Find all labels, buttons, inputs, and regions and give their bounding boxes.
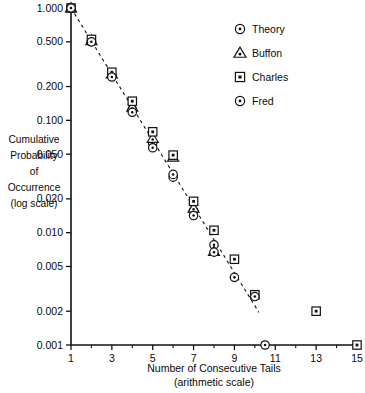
marker-center-dot <box>239 100 242 103</box>
chart-figure: 1.0000.5000.2000.1000.0500.0200.0100.005… <box>0 0 365 393</box>
cumulative-probability-scatter-chart: 1.0000.5000.2000.1000.0500.0200.0100.005… <box>0 0 365 393</box>
data-point <box>189 211 197 219</box>
marker-center-dot <box>239 28 242 31</box>
data-point <box>210 226 218 234</box>
data-points-group <box>66 3 362 350</box>
data-point <box>87 38 95 46</box>
legend-item-label: Theory <box>252 23 285 35</box>
chart-legend: TheoryBuffonCharlesFred <box>234 23 288 107</box>
marker-center-dot <box>213 229 216 232</box>
marker-center-dot <box>233 258 236 261</box>
y-axis-label-line: Cumulative <box>9 134 60 145</box>
y-axis-label-line: Probability <box>10 150 58 161</box>
legend-marker-icon <box>235 72 244 81</box>
y-axis-label: CumulativeProbabilityofOccurrence(log sc… <box>8 134 61 209</box>
marker-center-dot <box>233 276 236 279</box>
y-axis-label-line: Occurrence <box>8 182 61 193</box>
marker-center-dot <box>238 75 241 78</box>
triangle-marker-icon <box>234 47 246 57</box>
data-point <box>149 128 157 136</box>
series-charles <box>67 4 361 349</box>
y-axis-tick-label: 0.005 <box>37 260 63 272</box>
legend-item-label: Buffon <box>252 47 282 59</box>
y-axis-ticks: 1.0000.5000.2000.1000.0500.0200.0100.005… <box>37 2 71 351</box>
x-axis-tick-label: 3 <box>109 352 115 364</box>
data-point <box>353 341 361 349</box>
y-axis-tick-label: 0.500 <box>37 35 63 47</box>
legend-item-buffon: Buffon <box>234 47 282 59</box>
legend-item-charles: Charles <box>235 71 288 83</box>
marker-center-dot <box>151 130 154 133</box>
y-axis-tick-label: 1.000 <box>37 2 63 14</box>
marker-center-dot <box>213 251 216 254</box>
marker-center-dot <box>254 295 257 298</box>
data-point <box>230 273 238 281</box>
marker-center-dot <box>151 138 154 141</box>
chart-axes <box>71 8 357 345</box>
legend-marker-icon <box>235 96 244 105</box>
y-axis-tick-label: 0.002 <box>37 305 63 317</box>
data-point <box>251 292 259 300</box>
legend-item-label: Charles <box>252 71 288 83</box>
data-point <box>67 4 75 12</box>
marker-center-dot <box>264 344 267 347</box>
data-point <box>149 144 157 152</box>
legend-marker-icon <box>234 47 246 57</box>
marker-center-dot <box>131 100 134 103</box>
marker-center-dot <box>172 173 175 176</box>
x-axis-title: Number of Consecutive Tails <box>147 362 280 374</box>
marker-center-dot <box>356 344 359 347</box>
data-point <box>128 108 136 116</box>
legend-item-theory: Theory <box>235 23 285 35</box>
y-axis-label-line: (log scale) <box>11 198 58 209</box>
marker-center-dot <box>172 154 175 157</box>
x-axis-tick-label: 1 <box>68 352 74 364</box>
x-axis-tick-label: 15 <box>351 352 363 364</box>
legend-item-fred: Fred <box>235 95 273 107</box>
marker-center-dot <box>131 111 134 114</box>
marker-center-dot <box>239 53 242 56</box>
y-axis-tick-label: 0.010 <box>37 226 63 238</box>
data-point <box>230 255 238 263</box>
data-point <box>169 170 177 178</box>
marker-center-dot <box>90 41 93 44</box>
legend-item-label: Fred <box>252 95 274 107</box>
data-point <box>312 307 320 315</box>
y-axis-tick-label: 0.001 <box>37 339 63 351</box>
y-axis-label-line: of <box>30 166 39 177</box>
marker-center-dot <box>192 214 195 217</box>
data-point <box>169 151 177 159</box>
data-point <box>261 341 269 349</box>
y-axis-tick-label: 0.100 <box>37 114 63 126</box>
data-point <box>210 248 218 256</box>
marker-center-dot <box>192 200 195 203</box>
marker-center-dot <box>151 146 154 149</box>
marker-center-dot <box>111 76 114 79</box>
data-point <box>128 97 136 105</box>
x-axis-subtitle: (arithmetic scale) <box>174 376 254 388</box>
marker-center-dot <box>192 208 195 211</box>
x-axis-tick-label: 13 <box>310 352 322 364</box>
marker-center-dot <box>70 7 73 10</box>
y-axis-tick-label: 0.200 <box>37 80 63 92</box>
marker-center-dot <box>315 310 318 313</box>
legend-marker-icon <box>235 24 244 33</box>
data-point <box>189 197 197 205</box>
theory-trend-line <box>71 8 259 312</box>
data-point <box>108 73 116 81</box>
